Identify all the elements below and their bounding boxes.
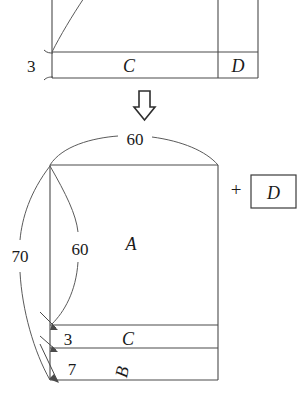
- bottom-left-inner-arc-upper: [50, 166, 78, 232]
- top-measure-3-lower-tick: [44, 77, 53, 80]
- boxed-region-d-label: D: [266, 183, 280, 203]
- bottom-left-outer-arc-label: 70: [12, 247, 29, 266]
- bottom-measure-3-label: 3: [64, 330, 73, 349]
- figure-canvas: 3 C D: [0, 0, 306, 404]
- bottom-left-inner-arc-label: 60: [72, 240, 89, 259]
- arrow-down-icon: [134, 91, 155, 120]
- bottom-region-a-label: A: [125, 234, 138, 254]
- measure-3-lower-arrowhead: [50, 346, 58, 352]
- bottom-left-inner-arc-lower: [52, 262, 78, 324]
- bottom-left-outer-arc-lower: [20, 272, 50, 380]
- bottom-top-arc-label: 60: [127, 130, 144, 149]
- top-left-curve: [52, 0, 84, 52]
- figure-svg: 3 C D: [0, 0, 306, 404]
- appendix-plus-d-group: + D: [231, 175, 296, 208]
- top-region-c-label: C: [123, 56, 136, 76]
- bottom-left-outer-arc-upper: [20, 166, 50, 240]
- bottom-region-b-label: B: [111, 364, 133, 379]
- transform-arrow-group: [134, 91, 155, 120]
- bottom-top-arc-right-segment: [152, 137, 218, 165]
- top-measure-3-label: 3: [27, 57, 36, 76]
- top-region-d-label: D: [231, 56, 245, 76]
- bottom-region-c-label: C: [122, 329, 135, 349]
- bottom-top-arc-left-segment: [50, 136, 118, 165]
- bottom-measure-7-label: 7: [68, 360, 77, 379]
- bottom-diagram-group: 60 70 60 A 3 C 7 B: [12, 130, 219, 383]
- top-diagram-group: 3 C D: [27, 0, 258, 80]
- plus-operator-label: +: [231, 179, 242, 200]
